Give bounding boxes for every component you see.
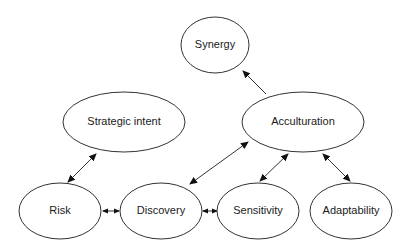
node-discovery: Discovery xyxy=(120,183,202,239)
node-label: Discovery xyxy=(137,204,186,216)
node-label: Strategic intent xyxy=(87,115,160,127)
edge-sensitivity-acculturation xyxy=(260,154,288,181)
node-risk: Risk xyxy=(19,183,101,239)
node-label: Acculturation xyxy=(271,115,335,127)
edge-acculturation-adaptability xyxy=(323,154,350,181)
node-synergy: Synergy xyxy=(181,17,249,73)
node-label: Adaptability xyxy=(323,204,380,216)
double-arrow-icon xyxy=(68,154,96,182)
edge-discovery-acculturation xyxy=(190,142,248,184)
node-acculturation: Acculturation xyxy=(242,92,364,152)
edge-acculturation-to-synergy xyxy=(243,71,266,94)
node-label: Risk xyxy=(49,204,71,216)
concept-diagram: Synergy Strategic intent Acculturation R… xyxy=(0,0,413,250)
double-arrow-icon xyxy=(260,154,288,181)
arrow-icon xyxy=(243,71,266,94)
double-arrow-icon xyxy=(190,142,248,184)
node-label: Sensitivity xyxy=(233,204,283,216)
double-arrow-icon xyxy=(323,154,350,181)
node-sensitivity: Sensitivity xyxy=(217,183,299,239)
node-adaptability: Adaptability xyxy=(310,183,392,239)
node-strategic-intent: Strategic intent xyxy=(63,92,185,152)
node-label: Synergy xyxy=(195,38,236,50)
edge-risk-strategic-intent xyxy=(68,154,96,182)
